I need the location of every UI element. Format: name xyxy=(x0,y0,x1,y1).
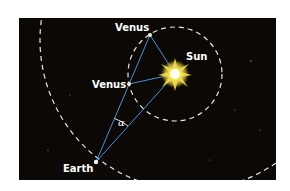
sun-icon xyxy=(158,58,192,91)
venus-transit-diagram: α Venus Venus Sun Earth xyxy=(0,0,290,191)
earth-icon xyxy=(94,160,98,164)
venus-top-icon xyxy=(148,33,152,37)
venus-left-label: Venus xyxy=(92,79,126,90)
earth-label: Earth xyxy=(63,163,93,174)
venus-left-icon xyxy=(127,82,131,86)
venus-top-label: Venus xyxy=(115,22,149,33)
sun-label: Sun xyxy=(186,51,207,62)
angle-alpha-label: α xyxy=(118,117,125,128)
star-field xyxy=(47,60,260,160)
